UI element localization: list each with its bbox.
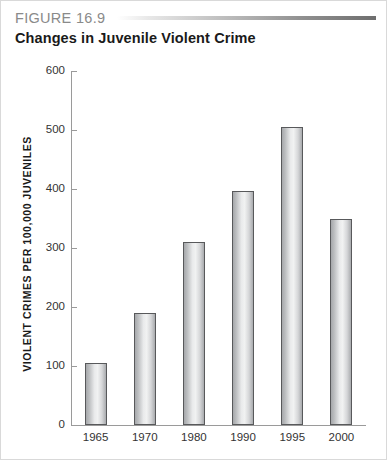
y-axis-tick-label: 600 xyxy=(46,64,65,76)
y-axis-tick-label: 400 xyxy=(46,182,65,194)
y-axis-tick-label: 300 xyxy=(46,241,65,253)
bar-1980 xyxy=(183,242,205,425)
y-axis-tick-label: 0 xyxy=(59,418,65,430)
bar-1990 xyxy=(232,191,254,425)
bar-series xyxy=(71,71,366,425)
y-axis-title: VIOLENT CRIMES PER 100,000 JUVENILES xyxy=(21,124,33,384)
bar-1965 xyxy=(85,363,107,425)
bar-1970 xyxy=(134,313,156,425)
bar-1995 xyxy=(281,127,303,425)
y-axis-tick-label: 100 xyxy=(46,359,65,371)
y-axis-tick-label: 200 xyxy=(46,300,65,312)
x-axis-label-2000: 2000 xyxy=(311,431,371,443)
y-axis-tick xyxy=(71,425,77,426)
figure-container: FIGURE 16.9 Changes in Juvenile Violent … xyxy=(0,0,387,460)
x-axis-line xyxy=(71,425,366,426)
chart-plot-area: VIOLENT CRIMES PER 100,000 JUVENILES 010… xyxy=(1,1,387,460)
y-axis-tick-label: 500 xyxy=(46,123,65,135)
bar-2000 xyxy=(330,219,352,426)
